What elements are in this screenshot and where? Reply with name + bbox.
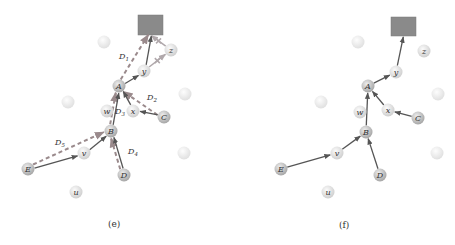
blank-node [432,88,445,101]
node-u: u [322,186,335,199]
node-label: A [115,82,122,91]
node-label: w [357,108,364,117]
node-A: A [113,80,126,93]
node-label: y [393,68,399,77]
node-label: y [141,67,147,76]
node-label: E [277,165,284,174]
cross-mark-icon [156,38,161,43]
cross-mark-icon [155,58,160,63]
node-B: B [105,125,118,138]
path-label: D1 [118,52,129,62]
node-z: z [418,45,431,58]
node-B: B [360,126,373,139]
node-label: D [376,171,384,180]
path-label: D3 [114,107,125,117]
node-x: x [127,105,140,118]
route-edge [395,112,412,117]
node-label: C [161,113,167,122]
node-y: y [138,65,151,78]
route-edge [342,136,360,149]
caption-f: (f) [339,220,349,230]
node-label: D [120,171,128,180]
node-A: A [362,80,375,93]
node-C: C [158,111,171,124]
node-label: v [82,149,87,158]
node-w: w [101,105,114,118]
node-label: z [421,47,427,56]
panel-f: zyAxCwBvEDu [275,17,445,199]
node-E: E [22,163,35,176]
sink-node [391,17,416,36]
route-edge [125,75,138,83]
path-label: D2 [146,93,157,103]
blank-node [178,147,191,160]
node-v: v [331,147,344,160]
node-label: E [24,165,31,174]
route-edge [374,75,390,83]
route-edge [366,93,367,126]
routing-diagram: zyAxCwBvEDuD1D2D3D4D5 zyAxCwBvEDu [0,0,455,245]
node-label: A [364,82,371,91]
route-edge [397,37,403,66]
node-label: z [168,46,174,55]
node-label: B [362,128,369,137]
node-x: x [382,104,395,117]
node-label: u [325,188,330,197]
panel-e: zyAxCwBvEDuD1D2D3D4D5 [22,15,192,199]
dashed-path-edge [33,132,104,164]
node-D: D [374,169,387,182]
sink-node [138,15,163,35]
blank-node [352,36,365,49]
node-u: u [70,186,83,199]
blank-node [315,96,328,109]
node-label: v [335,149,340,158]
node-label: u [73,188,78,197]
route-edge [372,91,383,105]
node-D: D [118,169,131,182]
blank-node [431,147,444,160]
node-C: C [412,112,425,125]
node-label: C [415,114,421,123]
node-label: B [107,127,114,136]
node-label: x [131,107,136,116]
node-label: x [386,106,391,115]
path-label: D5 [54,138,65,148]
route-edge [35,156,78,168]
route-edge [368,139,378,169]
node-label: w [104,107,111,116]
blank-node [98,36,111,49]
route-edge [287,155,330,167]
path-label: D4 [127,147,138,157]
caption-e: (e) [108,219,120,229]
node-y: y [390,66,403,79]
node-w: w [354,106,367,119]
blank-node [62,96,75,109]
blank-node [179,88,192,101]
route-edge [146,36,151,65]
node-E: E [275,163,288,176]
node-v: v [78,147,91,160]
node-z: z [165,44,178,57]
